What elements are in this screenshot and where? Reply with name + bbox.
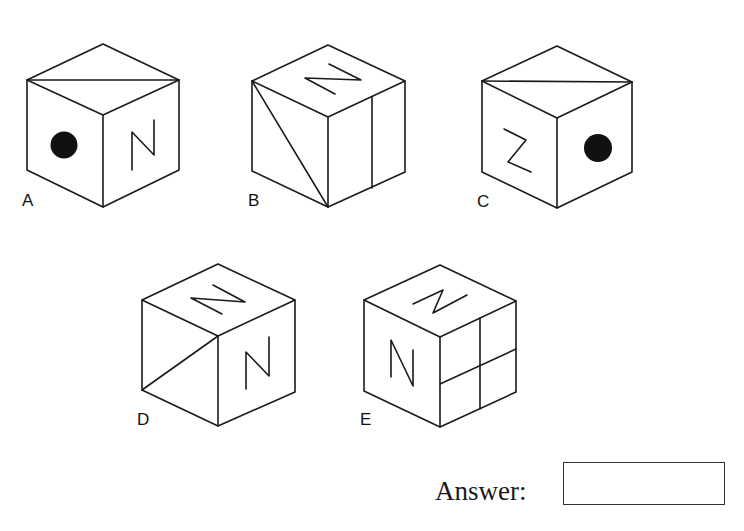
cube-e-top-edges	[364, 300, 516, 337]
cube-a-dot-icon	[51, 132, 78, 159]
cube-b-left-diagonal	[252, 81, 328, 207]
cube-d-right-letter-n	[246, 337, 269, 389]
option-label-e: E	[360, 410, 371, 429]
cube-a-top-edges	[27, 80, 179, 115]
option-label-d: D	[137, 410, 149, 429]
option-label-c: C	[477, 192, 489, 211]
cube-b	[252, 45, 405, 207]
option-label-a: A	[22, 191, 34, 210]
cube-d-top-edges	[142, 300, 295, 336]
cube-b-top-edges	[252, 81, 405, 117]
answer-label: Answer:	[435, 476, 526, 507]
cube-a	[27, 44, 179, 207]
cube-c	[482, 46, 632, 208]
cube-e-top-letter-n	[413, 290, 467, 313]
cube-c-top-diagonal	[482, 81, 632, 82]
cube-e-right-horizontal	[440, 349, 516, 384]
cube-e-left-letter-n	[391, 340, 413, 386]
option-label-b: B	[248, 191, 259, 210]
cube-c-dot-icon	[584, 134, 612, 162]
cube-b-letter-n	[305, 64, 361, 94]
cube-d-top-letter-n	[191, 285, 245, 314]
answer-input-box[interactable]	[563, 462, 725, 505]
cube-c-top-edges	[482, 81, 632, 118]
cube-diagram: A B C D E	[0, 0, 744, 531]
cube-a-letter-n	[132, 120, 154, 170]
cube-d-left-diagonal	[142, 336, 218, 390]
cube-d	[142, 264, 295, 426]
cube-c-letter-z	[504, 129, 531, 172]
cube-e	[364, 265, 516, 427]
